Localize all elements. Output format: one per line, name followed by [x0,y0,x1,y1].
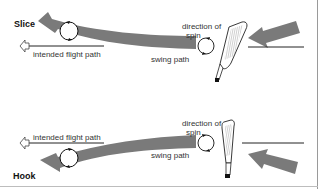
slice-swing-path-label: swing path [151,55,189,64]
slice-intended-flight-path-label: intended flight path [33,50,101,59]
golf-slice-hook-diagram [0,0,324,189]
slice-direction-of-spin-label-2: spin [186,31,201,40]
hook-direction-of-spin-label-2: spin [186,128,201,137]
hook-direction-of-spin-label-1: direction of [182,119,221,128]
hook-title: Hook [13,172,36,181]
hook-swing-path-label: swing path [151,151,189,160]
hook-ball-spin-icon [60,148,78,168]
hook-panel [20,120,304,178]
slice-ball-spin-icon [60,21,78,41]
slice-direction-of-spin-label-1: direction of [182,22,221,31]
hook-intended-flight-path-label: intended flight path [33,133,101,142]
slice-flight-target-icon [20,40,29,52]
hook-incoming-swing-arrow [248,149,298,174]
slice-title: Slice [14,20,35,29]
right-border [317,0,318,189]
hook-flight-target-icon [20,137,29,149]
slice-incoming-swing-arrow [248,21,300,48]
slice-panel [20,12,304,82]
hook-club-icon [222,120,234,178]
bottom-border [0,186,318,187]
